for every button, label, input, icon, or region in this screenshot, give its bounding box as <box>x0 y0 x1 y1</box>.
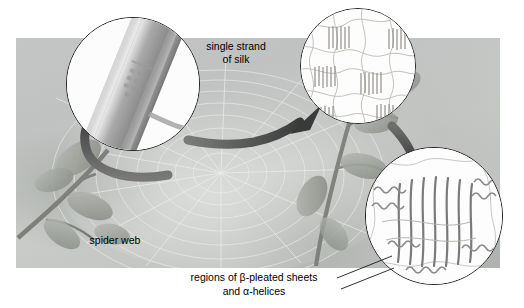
beta-sheet-caption-line2: and α-helices <box>168 285 340 299</box>
beta-sheet-caption-line1: regions of β-pleated sheets <box>168 271 340 285</box>
beta-sheet-caption: regions of β-pleated sheets and α-helice… <box>168 271 340 298</box>
beta-sheet-detail-inset[interactable] <box>365 147 503 285</box>
spider-web-label: spider web <box>68 234 162 247</box>
silk-strand-label-line1: single strand <box>186 40 286 53</box>
figure-canvas: single strand of silk spider web regions… <box>0 0 524 308</box>
silk-strand-label: single strand of silk <box>186 40 286 66</box>
silk-strand-label-line2: of silk <box>186 53 286 66</box>
protein-network-inset[interactable] <box>300 8 416 124</box>
silk-strand-inset[interactable] <box>66 17 200 151</box>
